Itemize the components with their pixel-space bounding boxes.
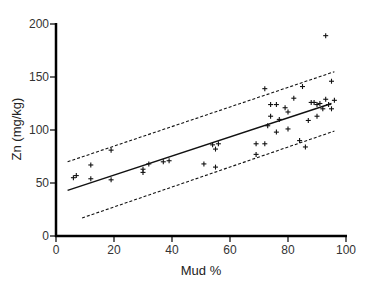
- axes: [55, 23, 347, 237]
- regression-line: [68, 104, 332, 191]
- data-point: [315, 114, 320, 119]
- data-point: [332, 98, 337, 103]
- data-point: [323, 97, 328, 102]
- data-point: [109, 177, 114, 182]
- data-point: [146, 161, 151, 166]
- fit-lines: [68, 72, 335, 218]
- data-point: [109, 148, 114, 153]
- y-tick-label: 50: [36, 176, 50, 190]
- data-point: [306, 118, 311, 123]
- data-point: [213, 147, 218, 152]
- data-point: [268, 114, 273, 119]
- data-point: [274, 102, 279, 107]
- data-point: [254, 152, 259, 157]
- x-axis-label: Mud %: [181, 263, 222, 278]
- x-tick-label: 20: [107, 243, 121, 257]
- data-point: [167, 158, 172, 163]
- y-tick-label: 200: [29, 17, 49, 31]
- x-tick-label: 60: [223, 243, 237, 257]
- x-tick-label: 0: [53, 243, 60, 257]
- y-ticks: 050100150200: [29, 17, 56, 243]
- x-tick-label: 100: [336, 243, 356, 257]
- data-point: [283, 105, 288, 110]
- data-point: [326, 102, 331, 107]
- data-point: [329, 106, 334, 111]
- y-axis-label: Zn (mg/kg): [9, 98, 24, 161]
- data-point: [291, 96, 296, 101]
- y-tick-label: 150: [29, 70, 49, 84]
- data-point: [262, 141, 267, 146]
- data-point: [300, 84, 305, 89]
- y-tick-label: 0: [42, 229, 49, 243]
- data-point: [329, 79, 334, 84]
- upper-bound-line: [68, 72, 335, 162]
- data-point: [213, 165, 218, 170]
- scatter-chart: 050100150200 020406080100 Mud % Zn (mg/k…: [0, 0, 368, 281]
- data-point: [262, 86, 267, 91]
- data-point: [88, 162, 93, 167]
- data-point: [323, 33, 328, 38]
- x-ticks: 020406080100: [53, 236, 357, 257]
- data-points: [71, 33, 337, 182]
- data-point: [286, 109, 291, 114]
- data-point: [286, 126, 291, 131]
- x-tick-label: 80: [281, 243, 295, 257]
- data-point: [254, 141, 259, 146]
- data-point: [201, 161, 206, 166]
- data-point: [274, 130, 279, 135]
- data-point: [303, 144, 308, 149]
- y-tick-label: 100: [29, 123, 49, 137]
- data-point: [88, 176, 93, 181]
- data-point: [141, 170, 146, 175]
- x-tick-label: 40: [165, 243, 179, 257]
- data-point: [268, 102, 273, 107]
- data-point: [317, 101, 322, 106]
